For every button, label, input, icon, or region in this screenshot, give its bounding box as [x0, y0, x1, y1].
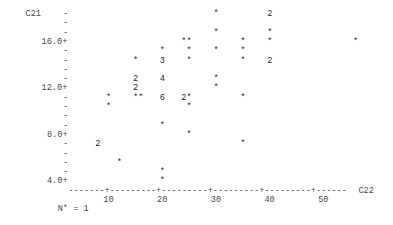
data-point-marker: * [133, 57, 138, 66]
data-point-count-marker: 2 [95, 140, 100, 149]
data-point-marker: * [160, 122, 165, 131]
data-point-marker: * [213, 84, 218, 93]
data-point-marker: * [117, 159, 122, 168]
data-point-count-marker: 4 [160, 75, 165, 84]
data-point-marker: * [213, 10, 218, 19]
data-point-marker: * [213, 47, 218, 56]
data-point-marker: * [353, 38, 358, 47]
data-point-marker: * [240, 57, 245, 66]
data-point-marker: * [240, 94, 245, 103]
y-axis-label: C21 [25, 10, 40, 19]
x-axis-label: C22 [358, 187, 373, 196]
data-point-count-marker: 2 [267, 10, 272, 19]
data-point-marker: * [267, 38, 272, 47]
y-tick-label: 4.0+ [47, 177, 68, 186]
data-point-marker: * [106, 103, 111, 112]
x-tick-label: 20 [157, 196, 167, 205]
x-tick-label: 10 [103, 196, 113, 205]
data-point-marker: * [187, 103, 192, 112]
character-scatter-plot: C21---16.0+----12.0+----8.0+----4.0+----… [0, 0, 393, 225]
missing-count-footnote: N* = 1 [58, 205, 89, 214]
data-point-marker: * [187, 57, 192, 66]
data-point-count-marker: 3 [160, 57, 165, 66]
data-point-marker: * [160, 177, 165, 186]
x-tick-label: 30 [211, 196, 221, 205]
data-point-count-marker: 6 [160, 94, 165, 103]
data-point-marker: * [240, 140, 245, 149]
x-tick-label: 50 [318, 196, 328, 205]
data-point-marker: * [213, 29, 218, 38]
data-point-marker: * [138, 94, 143, 103]
data-point-count-marker: 2 [267, 57, 272, 66]
x-tick-label: 40 [264, 196, 274, 205]
data-point-marker: * [187, 131, 192, 140]
